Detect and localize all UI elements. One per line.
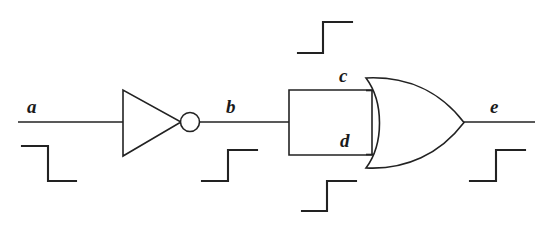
waveform-e [470, 150, 525, 181]
waveform-d [302, 181, 356, 211]
inverter-bubble-icon [181, 113, 200, 132]
or-gate-body [366, 78, 464, 168]
logic-circuit-figure: a b c d e [0, 0, 548, 229]
node-label-c: c [339, 66, 347, 85]
node-label-a: a [27, 97, 37, 116]
waveform-c [298, 22, 352, 53]
waveform-a [22, 146, 76, 181]
fanout-rectangle [289, 90, 372, 155]
node-label-d: d [340, 131, 350, 150]
inverter-triangle [123, 90, 181, 156]
node-label-e: e [490, 97, 498, 116]
waveform-b [202, 150, 257, 181]
node-label-b: b [226, 97, 236, 116]
circuit-canvas [0, 0, 548, 229]
